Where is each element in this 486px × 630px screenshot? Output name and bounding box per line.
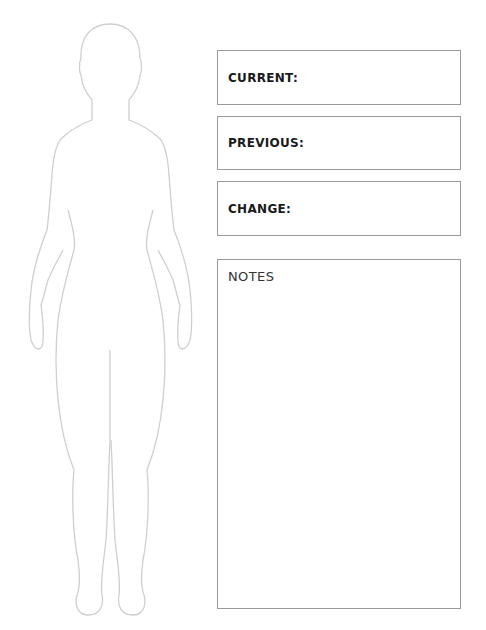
current-label: CURRENT: <box>228 71 298 85</box>
notes-label: NOTES <box>228 269 274 284</box>
previous-field[interactable]: PREVIOUS: <box>217 116 461 170</box>
notes-area[interactable]: NOTES <box>217 259 461 609</box>
change-field[interactable]: CHANGE: <box>217 181 461 236</box>
change-label: CHANGE: <box>228 202 291 216</box>
body-outline-icon <box>0 0 215 630</box>
current-field[interactable]: CURRENT: <box>217 50 461 105</box>
previous-label: PREVIOUS: <box>228 136 304 150</box>
